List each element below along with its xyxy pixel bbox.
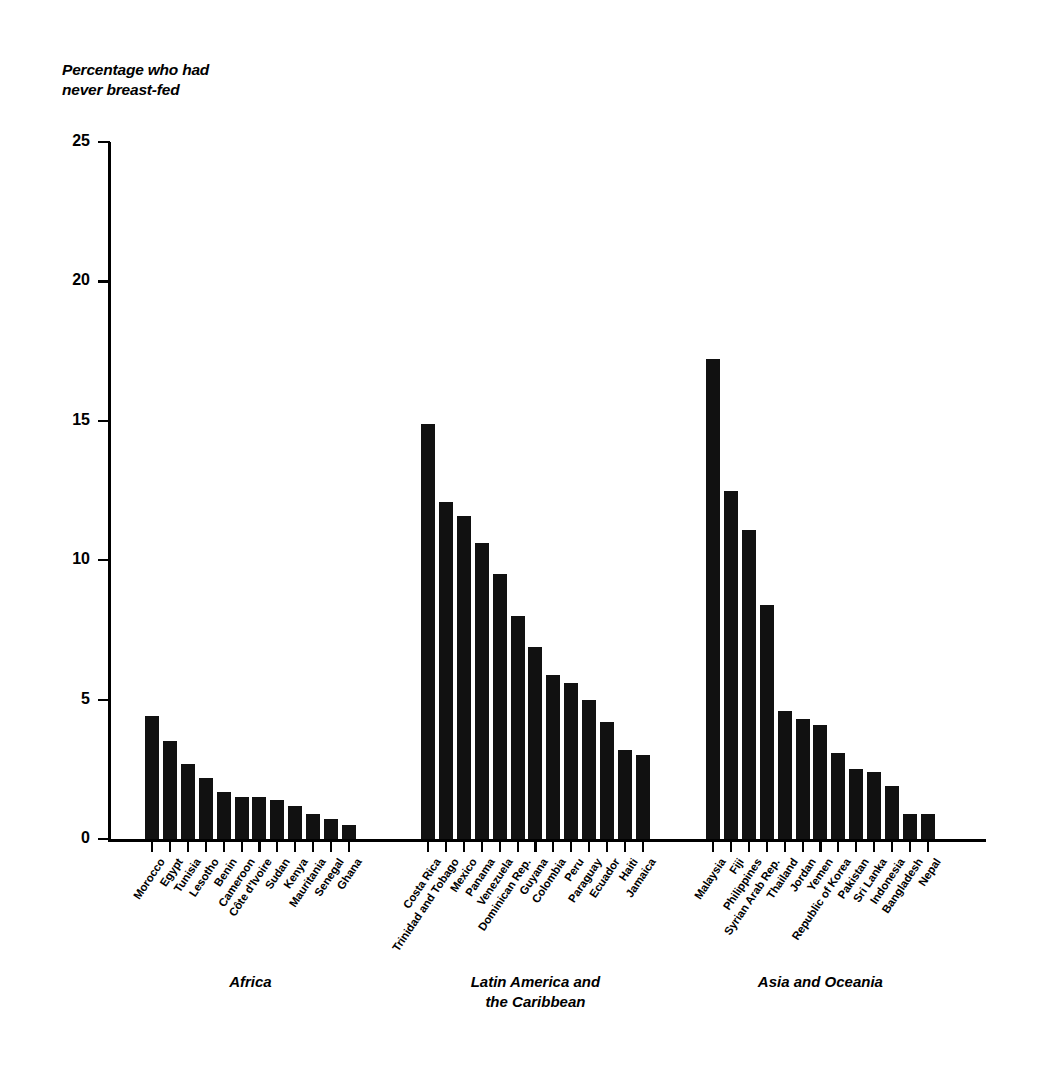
bar — [760, 605, 774, 839]
bar — [831, 753, 845, 839]
bars-layer — [0, 0, 1041, 841]
bar — [421, 424, 435, 839]
group-caption: Asia and Oceania — [690, 972, 950, 992]
plot-area: 0510152025 MoroccoEgyptTunisiaLesothoBen… — [0, 0, 1041, 1080]
bar — [475, 543, 489, 839]
group-caption: Africa — [120, 972, 380, 992]
bar — [439, 502, 453, 839]
bar — [600, 722, 614, 839]
bar — [528, 647, 542, 839]
bar — [724, 491, 738, 840]
bar — [511, 616, 525, 839]
bar — [163, 741, 177, 839]
bar — [564, 683, 578, 839]
bar — [145, 716, 159, 839]
x-axis-tick — [427, 841, 429, 852]
x-axis-category-label: Malaysia — [692, 856, 728, 901]
group-caption: Latin America and the Caribbean — [405, 972, 665, 1011]
x-axis-tick — [712, 841, 714, 852]
bar — [457, 516, 471, 839]
x-axis-tick — [151, 841, 153, 852]
bar — [742, 530, 756, 839]
bar — [706, 359, 720, 839]
